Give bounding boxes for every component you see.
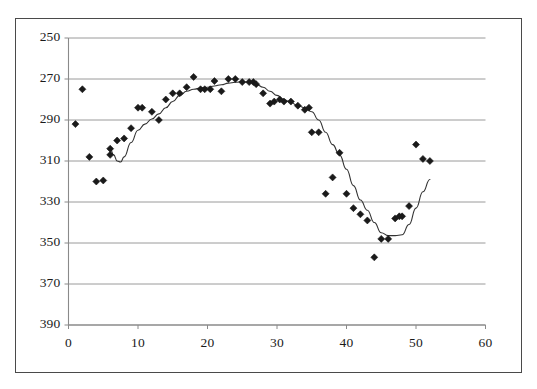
data-point-marker — [218, 88, 225, 95]
data-point-marker — [155, 117, 162, 124]
data-point-marker — [128, 125, 135, 132]
data-point-marker — [287, 98, 294, 105]
x-axis-tick-label: 30 — [257, 335, 297, 351]
data-point-marker — [86, 153, 93, 160]
data-point-marker — [315, 129, 322, 136]
x-axis-tick-label: 40 — [327, 335, 367, 351]
y-axis-tick-label: 270 — [27, 70, 61, 86]
data-point-marker — [107, 145, 114, 152]
axes — [65, 38, 486, 329]
x-axis-tick-label: 10 — [118, 335, 158, 351]
data-point-marker — [406, 203, 413, 210]
y-axis-tick-label: 370 — [27, 275, 61, 291]
data-point-marker — [364, 217, 371, 224]
x-axis-tick-label: 20 — [188, 335, 228, 351]
data-point-marker — [79, 86, 86, 93]
x-axis-tick-label: 0 — [49, 335, 89, 351]
data-point-marker — [350, 205, 357, 212]
data-point-marker — [322, 190, 329, 197]
data-point-marker — [121, 135, 128, 142]
scatter-plot-canvas — [0, 0, 537, 389]
y-axis-tick-label: 310 — [27, 152, 61, 168]
data-point-marker — [329, 174, 336, 181]
data-point-marker — [100, 177, 107, 184]
data-point-marker — [148, 108, 155, 115]
data-point-marker — [336, 149, 343, 156]
data-point-marker — [162, 96, 169, 103]
data-point-group — [72, 73, 433, 260]
data-point-marker — [426, 158, 433, 165]
gridlines — [69, 38, 486, 325]
data-point-marker — [114, 137, 121, 144]
y-axis-tick-label: 350 — [27, 234, 61, 250]
x-axis-tick-label: 50 — [396, 335, 436, 351]
data-point-marker — [232, 76, 239, 83]
y-axis-tick-label: 330 — [27, 193, 61, 209]
y-axis-tick-label: 290 — [27, 111, 61, 127]
data-point-marker — [343, 190, 350, 197]
data-point-marker — [225, 76, 232, 83]
data-point-marker — [176, 90, 183, 97]
chart-figure: 3903703503303102902702500102030405060 — [0, 0, 537, 389]
x-axis-tick-label: 60 — [466, 335, 506, 351]
data-point-marker — [378, 235, 385, 242]
data-point-marker — [294, 102, 301, 109]
y-axis-tick-label: 390 — [27, 316, 61, 332]
data-point-marker — [260, 90, 267, 97]
data-point-marker — [139, 104, 146, 111]
data-point-marker — [93, 178, 100, 185]
data-point-marker — [239, 79, 246, 86]
data-point-marker — [72, 121, 79, 128]
data-point-marker — [385, 235, 392, 242]
data-point-marker — [357, 211, 364, 218]
data-point-marker — [308, 129, 315, 136]
data-point-marker — [169, 90, 176, 97]
data-point-marker — [183, 84, 190, 91]
data-point-marker — [371, 254, 378, 261]
y-axis-tick-label: 250 — [27, 29, 61, 45]
data-point-marker — [413, 141, 420, 148]
